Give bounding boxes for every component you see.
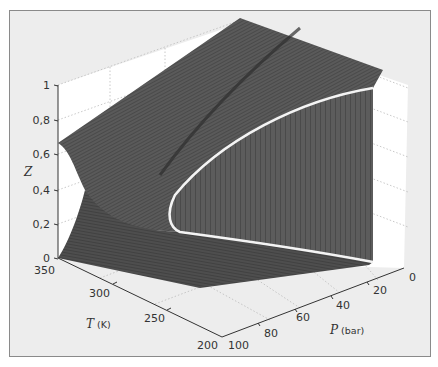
svg-text:0,6: 0,6	[33, 148, 51, 161]
surface-plot: 1 0,8 0,6 0,4 0,2 0 Z 350 300 250 200 T(…	[0, 0, 438, 367]
svg-text:0: 0	[409, 271, 416, 284]
svg-text:0,4: 0,4	[33, 184, 51, 197]
svg-text:100: 100	[228, 339, 249, 352]
svg-text:40: 40	[336, 299, 350, 312]
svg-text:0,8: 0,8	[33, 114, 51, 127]
p-axis-label: P(bar)	[329, 323, 364, 337]
svg-text:200: 200	[197, 339, 218, 352]
svg-text:1: 1	[43, 79, 50, 92]
svg-text:250: 250	[144, 312, 165, 325]
z-surface	[58, 18, 383, 288]
z-tick-labels: 1 0,8 0,6 0,4 0,2 0	[33, 79, 51, 265]
z-axis-label: Z	[23, 165, 33, 179]
svg-text:80: 80	[264, 327, 278, 340]
svg-text:60: 60	[296, 311, 310, 324]
p-tick-labels: 100 80 60 40 20 0	[228, 271, 416, 352]
svg-text:20: 20	[373, 284, 387, 297]
svg-text:350: 350	[34, 264, 55, 277]
svg-text:300: 300	[89, 287, 110, 300]
svg-text:0,2: 0,2	[33, 218, 51, 231]
t-axis-label: T(K)	[86, 317, 111, 331]
